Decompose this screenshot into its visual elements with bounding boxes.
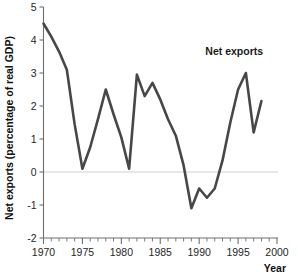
series-annotation: Net exports	[205, 45, 263, 57]
x-tick-label: 1980	[110, 246, 134, 258]
chart-background	[0, 0, 298, 277]
x-axis-title: Year	[264, 262, 286, 274]
y-tick-label: -2	[27, 232, 36, 244]
y-tick-label: 4	[31, 34, 37, 46]
net-exports-chart: -2-1012345 1970197519801985199019952000 …	[0, 0, 298, 277]
y-tick-label: 1	[31, 133, 37, 145]
y-tick-label: 2	[31, 100, 37, 112]
x-tick-label: 2000	[265, 246, 289, 258]
x-tick-label: 1975	[71, 246, 95, 258]
y-tick-label: 3	[31, 67, 37, 79]
y-axis-title: Net exports (percentage of real GDP)	[3, 36, 15, 220]
y-tick-label: -1	[27, 199, 36, 211]
x-tick-label: 1990	[187, 246, 211, 258]
x-tick-label: 1970	[32, 246, 56, 258]
chart-canvas: -2-1012345 1970197519801985199019952000 …	[0, 0, 298, 277]
x-tick-label: 1995	[226, 246, 250, 258]
x-tick-label: 1985	[149, 246, 173, 258]
series-annotation-layer: Net exports	[205, 45, 263, 57]
y-tick-label: 5	[31, 1, 37, 13]
y-tick-label: 0	[31, 166, 37, 178]
